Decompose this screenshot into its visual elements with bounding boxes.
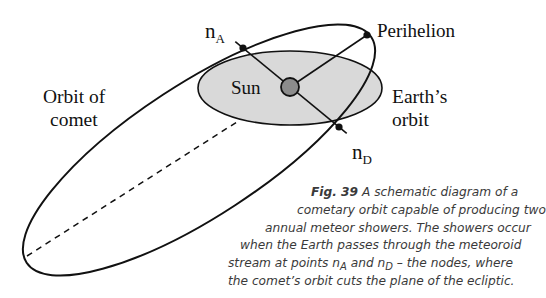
caption-text-5b: and bbox=[347, 256, 378, 270]
orbit-of-comet-label-line2: comet bbox=[50, 110, 98, 130]
caption-line-6: the comet’s orbit cuts the plane of the … bbox=[228, 275, 514, 287]
caption-line-5: stream at points nA and nD – the nodes, … bbox=[228, 257, 513, 272]
sun-icon bbox=[281, 78, 299, 96]
sun-label: Sun bbox=[231, 78, 261, 97]
caption-line-4: when the Earth passes through the meteor… bbox=[240, 239, 521, 251]
earths-orbit-label-line1: Earth’s bbox=[392, 87, 447, 107]
figure-number: Fig. 39 bbox=[311, 185, 358, 199]
caption-node-d-sub: D bbox=[385, 261, 393, 272]
node-a-sub: A bbox=[216, 31, 225, 46]
node-d-base: n bbox=[352, 140, 363, 164]
node-a-base: n bbox=[205, 19, 216, 43]
caption-text-1: A schematic diagram of a bbox=[358, 185, 518, 199]
caption-line-3: annual meteor showers. The showers occur bbox=[265, 222, 531, 234]
perihelion-label: Perihelion bbox=[377, 21, 455, 40]
earths-orbit-label-line2: orbit bbox=[392, 110, 429, 130]
caption-line-2: cometary orbit capable of producing two bbox=[297, 204, 546, 216]
descending-node-point bbox=[335, 123, 342, 130]
orbit-of-comet-label-line1: Orbit of bbox=[43, 87, 105, 107]
ascending-node-point bbox=[239, 44, 246, 51]
node-d-sub: D bbox=[363, 152, 372, 167]
apsidal-dashed-line bbox=[27, 120, 240, 256]
node-d-label: nD bbox=[352, 142, 372, 166]
caption-text-5c: – the nodes, where bbox=[393, 256, 513, 270]
comet-orbit-ellipse bbox=[0, 0, 408, 298]
caption-node-a: n bbox=[332, 256, 340, 270]
perihelion-point bbox=[363, 31, 370, 38]
caption-line-1: Fig. 39 A schematic diagram of a bbox=[311, 186, 518, 198]
caption-text-5a: stream at points bbox=[228, 256, 332, 270]
node-a-label: nA bbox=[205, 21, 225, 45]
caption-node-a-sub: A bbox=[340, 261, 347, 272]
